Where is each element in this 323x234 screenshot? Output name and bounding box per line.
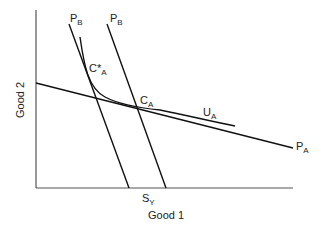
sy-label: SY xyxy=(142,192,155,207)
pb-left-label: PB xyxy=(70,12,83,27)
c-a-label: CA xyxy=(140,94,154,109)
pb-right-label: PB xyxy=(110,12,123,27)
pb-left-line xyxy=(69,24,129,188)
y-axis-label: Good 2 xyxy=(14,82,26,118)
trade-equilibrium-diagram: PB PB C*A CA UA PA SY Good 1 Good 2 xyxy=(0,0,323,234)
x-axis-label: Good 1 xyxy=(148,209,184,221)
c-star-a-label: C*A xyxy=(89,62,107,77)
pa-line xyxy=(36,83,293,148)
ua-label: UA xyxy=(203,106,217,121)
pa-label: PA xyxy=(296,140,309,155)
pb-right-line xyxy=(107,24,166,188)
